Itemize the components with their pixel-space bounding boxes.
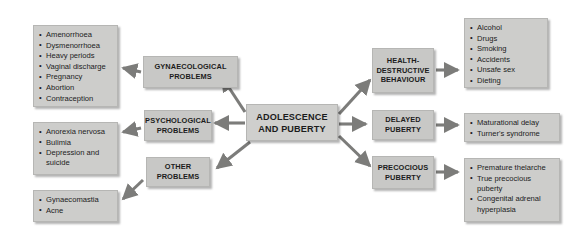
delayed-puberty-items-list: Maturational delayTurner's syndrome — [465, 114, 559, 143]
list-item: Premature thelarche — [470, 163, 555, 173]
delayed-puberty-label: DELAYED PUBERTY — [385, 115, 421, 134]
list-health-destructive-items: AlcoholDrugsSmokingAccidentsUnsafe sexDi… — [464, 18, 548, 88]
list-item: Gynaecomastia — [39, 195, 113, 205]
precocious-puberty-items-list: Premature thelarcheTrue precocious puber… — [465, 159, 559, 219]
list-other-items: GynaecomastiaAcne — [33, 190, 118, 222]
precocious-puberty-label: PRECOCIOUS PUBERTY — [378, 163, 429, 182]
arrow-center-to-health-destructive — [339, 80, 370, 114]
list-item: Acne — [39, 206, 113, 216]
list-item: Abortion — [39, 83, 113, 93]
list-item: True precocious puberty — [470, 174, 555, 194]
list-item: Alcohol — [470, 23, 543, 33]
list-delayed-puberty-items: Maturational delayTurner's syndrome — [464, 113, 560, 142]
node-precocious-puberty[interactable]: PRECOCIOUS PUBERTY — [372, 156, 434, 189]
list-item: Smoking — [470, 44, 543, 54]
diagram-canvas: ADOLESCENCE AND PUBERTY GYNAECOLOGICAL P… — [0, 0, 584, 245]
arrow-psychological-to-list — [123, 128, 141, 132]
node-delayed-puberty[interactable]: DELAYED PUBERTY — [372, 110, 434, 140]
list-precocious-puberty-items: Premature thelarcheTrue precocious puber… — [464, 158, 560, 222]
node-health-destructive-behaviour[interactable]: HEALTH- DESTRUCTIVE BEHAVIOUR — [372, 48, 434, 93]
list-item: Bulimia — [39, 138, 113, 148]
node-psychological-problems[interactable]: PSYCHOLOGICAL PROBLEMS — [144, 110, 212, 141]
arrow-center-to-other — [217, 142, 250, 168]
other-items-list: GynaecomastiaAcne — [34, 191, 117, 220]
gynaecological-items-list: AmenorrhoeaDysmenorrhoeaHeavy periodsVag… — [34, 26, 117, 108]
psychological-items-list: Anorexia nervosaBulimiaDepression and su… — [34, 123, 117, 173]
arrow-center-to-precocious-puberty — [339, 136, 370, 166]
list-item: Anorexia nervosa — [39, 127, 113, 137]
list-item: Unsafe sex — [470, 65, 543, 75]
list-item: Congenital adrenal hyperplasia — [470, 194, 555, 214]
other-label: OTHER PROBLEMS — [157, 162, 200, 181]
center-label: ADOLESCENCE AND PUBERTY — [256, 111, 327, 135]
health-destructive-items-list: AlcoholDrugsSmokingAccidentsUnsafe sexDi… — [465, 19, 547, 91]
gynaecological-label: GYNAECOLOGICAL PROBLEMS — [154, 62, 226, 81]
list-item: Dieting — [470, 76, 543, 86]
health-destructive-label: HEALTH- DESTRUCTIVE BEHAVIOUR — [376, 56, 429, 85]
list-psychological-items: Anorexia nervosaBulimiaDepression and su… — [33, 122, 118, 175]
list-item: Heavy periods — [39, 51, 113, 61]
list-item: Accidents — [470, 55, 543, 65]
list-item: Dysmenorrhoea — [39, 41, 113, 51]
psychological-label: PSYCHOLOGICAL PROBLEMS — [145, 116, 211, 135]
list-item: Maturational delay — [470, 118, 555, 128]
list-item: Vaginal discharge — [39, 62, 113, 72]
list-item: Drugs — [470, 34, 543, 44]
list-item: Depression and suicide — [39, 148, 113, 168]
list-item: Amenorrhoea — [39, 30, 113, 40]
list-gynaecological-items: AmenorrhoeaDysmenorrhoeaHeavy periodsVag… — [33, 25, 118, 107]
arrow-other-to-list — [123, 180, 143, 199]
node-adolescence-and-puberty[interactable]: ADOLESCENCE AND PUBERTY — [246, 104, 338, 141]
node-gynaecological-problems[interactable]: GYNAECOLOGICAL PROBLEMS — [143, 56, 238, 88]
node-other-problems[interactable]: OTHER PROBLEMS — [146, 157, 210, 187]
arrow-gynaecological-to-list — [123, 68, 141, 72]
list-item: Pregnancy — [39, 72, 113, 82]
list-item: Contraception — [39, 94, 113, 104]
list-item: Turner's syndrome — [470, 129, 555, 139]
